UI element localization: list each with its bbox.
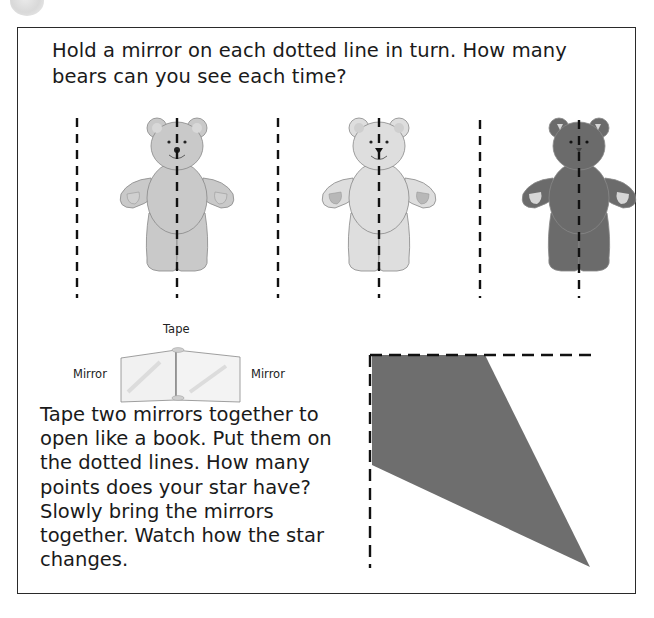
star-quadrant	[370, 355, 595, 568]
activity2-instruction: Tape two mirrors together to open like a…	[40, 403, 340, 572]
tape-label: Tape	[163, 322, 190, 336]
mirror-right-label: Mirror	[251, 367, 285, 381]
mirror-book-diagram	[121, 348, 240, 402]
mirror-left-label: Mirror	[73, 367, 107, 381]
